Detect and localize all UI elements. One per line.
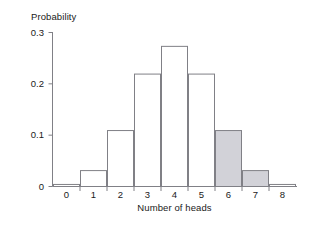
histogram-bar	[189, 74, 215, 186]
x-axis-tick-text: 2	[106, 190, 136, 200]
y-axis-tick-text: 0.3	[31, 28, 44, 38]
x-axis-tick-text: 0	[52, 190, 82, 200]
histogram-bar	[243, 171, 269, 187]
x-axis-tick-text: 1	[79, 190, 109, 200]
x-axis-label: Number of heads	[53, 202, 296, 213]
x-axis-tick-text: 5	[187, 190, 217, 200]
histogram-bar	[108, 131, 134, 187]
y-axis-tick-text: 0.2	[31, 79, 44, 89]
y-axis-tick-label: 0	[16, 182, 44, 192]
histogram-bar	[135, 74, 161, 186]
x-axis-tick-text: 7	[241, 190, 271, 200]
y-axis-tick-label: 0.1	[16, 130, 44, 140]
x-axis-tick-text: 6	[214, 190, 244, 200]
bars-layer	[54, 46, 296, 186]
x-axis-tick-text: 4	[160, 190, 190, 200]
y-axis-tick-label: 0.2	[16, 79, 44, 89]
y-axis-tick-text: 0.1	[31, 130, 44, 140]
y-axis-tick-text: 0	[39, 182, 44, 192]
histogram-bar	[162, 46, 188, 186]
x-axis-tick-text: 8	[268, 190, 298, 200]
y-axis-ticks	[49, 33, 53, 187]
histogram-bar	[81, 171, 107, 187]
y-axis-tick-label: 0.3	[16, 28, 44, 38]
histogram-bar	[216, 131, 242, 187]
x-axis-tick-text: 3	[133, 190, 163, 200]
probability-histogram-figure: Probability 00.10.20.3 012345678 Number …	[0, 0, 314, 226]
